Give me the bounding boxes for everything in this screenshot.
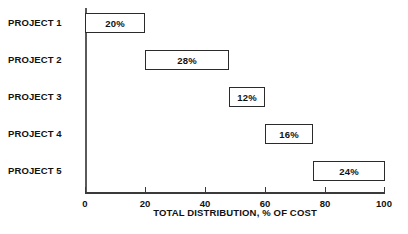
bar-project-3[interactable]: 12% [229, 87, 265, 107]
x-tick-0 [85, 187, 86, 192]
x-axis-line [85, 192, 385, 194]
bar-project-2[interactable]: 28% [145, 50, 229, 70]
category-label-project-4: PROJECT 4 [8, 129, 82, 139]
x-tick-80 [325, 187, 326, 192]
bar-value-project-1: 20% [105, 18, 125, 29]
chart-container: PROJECT 1 PROJECT 2 PROJECT 3 PROJECT 4 … [0, 0, 408, 234]
category-label-project-5: PROJECT 5 [8, 166, 82, 176]
bar-value-project-3: 12% [237, 92, 257, 103]
y-axis-line [85, 8, 87, 192]
x-axis-title: TOTAL DISTRIBUTION, % OF COST [85, 207, 385, 218]
x-tick-100 [384, 187, 385, 192]
bar-project-1[interactable]: 20% [85, 13, 145, 33]
category-label-project-1: PROJECT 1 [8, 18, 82, 28]
x-tick-60 [265, 187, 266, 192]
plot-area: 0 20 40 60 80 100 20% 28% 12% 16% 24% [85, 8, 385, 192]
bar-project-4[interactable]: 16% [265, 124, 313, 144]
bar-value-project-5: 24% [339, 166, 359, 177]
category-label-project-2: PROJECT 2 [8, 55, 82, 65]
x-tick-40 [205, 187, 206, 192]
x-tick-20 [145, 187, 146, 192]
bar-value-project-2: 28% [177, 55, 197, 66]
bar-value-project-4: 16% [279, 129, 299, 140]
bar-project-5[interactable]: 24% [313, 161, 385, 181]
category-label-project-3: PROJECT 3 [8, 92, 82, 102]
